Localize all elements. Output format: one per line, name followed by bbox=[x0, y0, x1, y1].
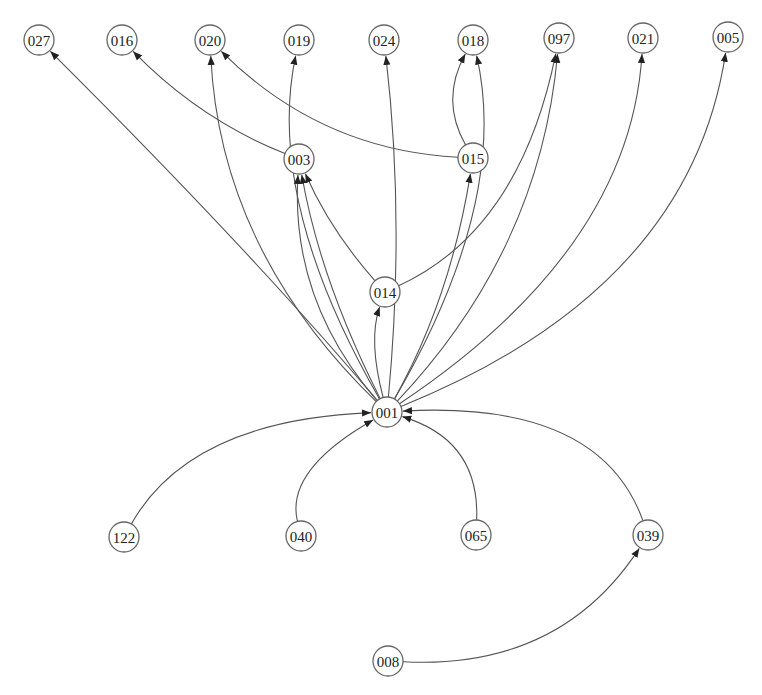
node-020: 020 bbox=[195, 25, 225, 55]
edge-001-to-014 bbox=[375, 307, 384, 397]
edge-008-to-039 bbox=[403, 548, 639, 662]
node-label: 122 bbox=[113, 530, 136, 546]
edge-001-to-027 bbox=[50, 51, 377, 400]
node-label: 024 bbox=[373, 33, 396, 49]
node-label: 065 bbox=[465, 528, 488, 544]
node-008: 008 bbox=[373, 646, 403, 676]
edge-003-to-016 bbox=[133, 51, 285, 153]
node-014: 014 bbox=[370, 277, 400, 307]
node-097: 097 bbox=[544, 23, 574, 53]
nodes-layer: 0270160200190240180970210050030150140011… bbox=[24, 22, 743, 676]
node-040: 040 bbox=[286, 521, 316, 551]
edge-arrow-path bbox=[133, 51, 285, 153]
node-021: 021 bbox=[628, 23, 658, 53]
edge-arrow-path bbox=[386, 56, 396, 397]
edge-arrow-path bbox=[395, 56, 485, 399]
edge-arrow-path bbox=[399, 54, 642, 404]
node-label: 016 bbox=[111, 33, 134, 49]
edge-001-to-015 bbox=[394, 174, 470, 399]
edge-arrow-path bbox=[305, 174, 375, 281]
node-019: 019 bbox=[284, 25, 314, 55]
edge-arrow-path bbox=[403, 548, 639, 662]
node-label: 020 bbox=[199, 33, 222, 49]
node-018: 018 bbox=[458, 25, 488, 55]
node-027: 027 bbox=[24, 25, 54, 55]
edge-039-to-001 bbox=[403, 410, 643, 521]
edge-arrow-path bbox=[403, 410, 643, 521]
edge-001-to-021 bbox=[399, 54, 642, 404]
node-label: 008 bbox=[377, 654, 400, 670]
edge-arrow-path bbox=[394, 174, 470, 399]
node-065: 065 bbox=[461, 520, 491, 550]
node-label: 001 bbox=[376, 405, 399, 421]
node-label: 039 bbox=[637, 528, 660, 544]
node-016: 016 bbox=[107, 25, 137, 55]
edge-040-to-001 bbox=[296, 420, 373, 522]
edges-layer bbox=[50, 51, 725, 662]
node-001: 001 bbox=[372, 397, 402, 427]
edge-arrow-path bbox=[296, 420, 373, 522]
edge-001-to-018 bbox=[395, 56, 485, 399]
node-label: 005 bbox=[717, 30, 740, 46]
edge-arrow-path bbox=[375, 307, 384, 397]
node-label: 015 bbox=[462, 151, 485, 167]
node-039: 039 bbox=[633, 520, 663, 550]
node-005: 005 bbox=[713, 22, 743, 52]
node-label: 027 bbox=[28, 33, 51, 49]
edge-015-to-018 bbox=[453, 54, 466, 145]
node-label: 040 bbox=[290, 529, 313, 545]
node-024: 024 bbox=[369, 25, 399, 55]
edge-001-to-024 bbox=[386, 56, 396, 397]
node-122: 122 bbox=[109, 522, 139, 552]
edge-arrow-path bbox=[402, 417, 476, 520]
node-label: 003 bbox=[288, 152, 311, 168]
node-015: 015 bbox=[458, 143, 488, 173]
edge-arrow-path bbox=[50, 51, 377, 400]
directed-graph: 0270160200190240180970210050030150140011… bbox=[0, 0, 762, 695]
edge-arrow-path bbox=[453, 54, 466, 145]
edge-arrow-path bbox=[401, 53, 726, 407]
node-label: 019 bbox=[288, 33, 311, 49]
edge-065-to-001 bbox=[402, 417, 476, 520]
node-label: 021 bbox=[632, 31, 655, 47]
node-label: 097 bbox=[548, 31, 571, 47]
edge-001-to-005 bbox=[401, 53, 726, 407]
edge-014-to-003 bbox=[305, 174, 375, 281]
edge-122-to-001 bbox=[131, 413, 371, 524]
edge-arrow-path bbox=[131, 413, 371, 524]
node-003: 003 bbox=[284, 144, 314, 174]
node-label: 014 bbox=[374, 285, 397, 301]
node-label: 018 bbox=[462, 33, 485, 49]
